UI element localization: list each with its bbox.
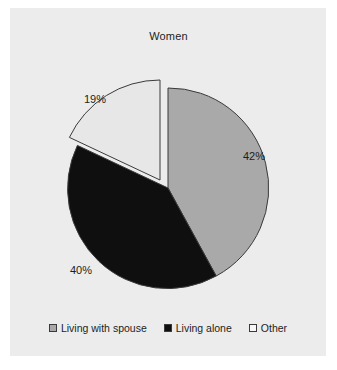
legend-label-other: Other (261, 322, 287, 334)
legend-item-other[interactable]: Other (249, 322, 287, 334)
pie-graphic (0, 0, 337, 370)
square-swatch-white-icon (249, 324, 257, 332)
legend-label-living-with-spouse: Living with spouse (61, 322, 147, 334)
square-swatch-black-icon (164, 324, 172, 332)
data-label-living-with-spouse: 42% (243, 150, 265, 162)
data-label-living-alone: 40% (70, 264, 92, 276)
legend-item-living-with-spouse[interactable]: Living with spouse (49, 322, 147, 334)
legend-label-living-alone: Living alone (176, 322, 232, 334)
data-label-other: 19% (84, 93, 106, 105)
pie-chart-figure: Women 42% 40% 19% Living with spouse Liv… (0, 0, 337, 370)
legend-item-living-alone[interactable]: Living alone (164, 322, 232, 334)
square-swatch-gray-icon (49, 324, 57, 332)
chart-legend: Living with spouse Living alone Other (10, 322, 326, 334)
